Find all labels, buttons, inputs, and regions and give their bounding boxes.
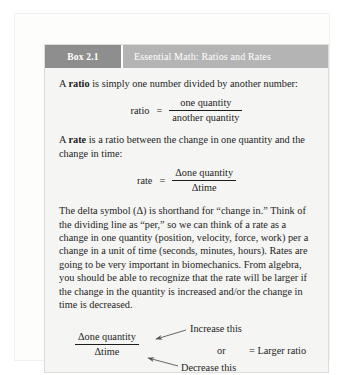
larger-ratio-diagram: Δone quantity Δtime Increase this Decrea…: [59, 317, 314, 375]
ratio-formula-lhs: ratio: [131, 105, 150, 116]
ratio-denominator: another quantity: [169, 111, 242, 124]
box-title: Essential Math: Ratios and Rates: [123, 45, 328, 68]
rate-intro-suffix: is a ratio between the change in one qua…: [59, 134, 305, 158]
ratio-intro-suffix: is simply one number divided by another …: [90, 78, 298, 89]
page-frame: Box 2.1 Essential Math: Ratios and Rates…: [14, 13, 330, 361]
box-number-label: Box 2.1: [45, 45, 121, 68]
ratio-fraction: one quantity another quantity: [169, 97, 242, 124]
ratio-formula-equals: =: [156, 105, 162, 116]
rate-formula-lhs: rate: [137, 175, 152, 186]
decrease-note: Decrease this: [181, 362, 236, 373]
ratio-intro-paragraph: A ratio is simply one number divided by …: [59, 77, 314, 90]
larger-ratio-label: = Larger ratio: [249, 345, 306, 356]
textbox-essential-math: Box 2.1 Essential Math: Ratios and Rates…: [44, 44, 329, 373]
page-canvas: Box 2.1 Essential Math: Ratios and Rates…: [0, 0, 345, 375]
rate-denominator: Δtime: [189, 181, 220, 194]
diagram-numerator: Δone quantity: [75, 331, 139, 344]
ratio-formula: ratio = one quantity another quantity: [59, 97, 314, 124]
increase-note: Increase this: [190, 323, 242, 334]
rate-keyword: rate: [68, 134, 86, 145]
increase-arrow: [156, 330, 186, 339]
diagram-fraction: Δone quantity Δtime: [75, 331, 139, 358]
box-body: A ratio is simply one number divided by …: [45, 68, 328, 375]
diagram-denominator: Δtime: [91, 345, 122, 358]
rate-formula: rate = Δone quantity Δtime: [59, 167, 314, 194]
explanation-paragraph: The delta symbol (Δ) is shorthand for “c…: [59, 204, 314, 311]
ratio-keyword: ratio: [68, 78, 89, 89]
rate-fraction: Δone quantity Δtime: [172, 167, 236, 194]
or-label: or: [217, 345, 226, 356]
rate-formula-equals: =: [159, 175, 165, 186]
rate-intro-paragraph: A rate is a ratio between the change in …: [59, 133, 314, 160]
decrease-arrow: [148, 358, 178, 366]
box-header: Box 2.1 Essential Math: Ratios and Rates: [45, 45, 328, 68]
rate-numerator: Δone quantity: [172, 167, 236, 180]
diagram-fraction-stack: Δone quantity Δtime: [75, 331, 139, 358]
ratio-numerator: one quantity: [177, 97, 234, 110]
